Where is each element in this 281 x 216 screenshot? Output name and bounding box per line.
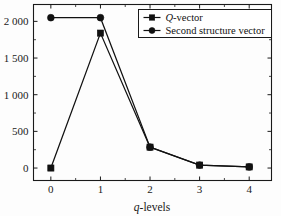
y-tick-label: 1 500 — [4, 52, 29, 64]
y-tick-label: 1 000 — [4, 89, 29, 101]
data-point — [48, 165, 54, 171]
data-point — [147, 144, 154, 151]
legend-label: Second structure vector — [166, 25, 266, 36]
line-chart: 05001 0001 5002 000 01234 q-levels Q-vec… — [0, 0, 281, 216]
x-tick-label: 4 — [246, 183, 252, 195]
x-tick-label: 3 — [197, 183, 203, 195]
x-axis-tick-labels: 01234 — [48, 183, 252, 195]
y-tick-label: 0 — [23, 162, 29, 174]
x-tick-label: 1 — [98, 183, 104, 195]
x-axis-title-text: -levels — [140, 201, 171, 213]
legend-label: Q-vector — [166, 12, 204, 23]
legend-marker-circle-icon — [149, 28, 155, 34]
y-axis-tick-labels: 05001 0001 5002 000 — [4, 15, 29, 174]
y-tick-label: 2 000 — [4, 15, 29, 27]
x-tick-label: 2 — [147, 183, 153, 195]
y-axis-minor-ticks — [34, 40, 272, 150]
x-tick-label: 0 — [48, 183, 54, 195]
legend-marker-square-icon — [149, 15, 154, 20]
data-point — [196, 162, 203, 169]
chart-container: 05001 0001 5002 000 01234 q-levels Q-vec… — [0, 0, 281, 216]
data-point — [246, 164, 253, 171]
data-point — [97, 30, 103, 36]
x-axis-title: q-levels — [134, 201, 171, 214]
data-point — [47, 14, 54, 21]
svg-text:q-levels: q-levels — [134, 201, 171, 214]
y-tick-label: 500 — [12, 125, 29, 137]
legend: Q-vectorSecond structure vector — [139, 10, 272, 38]
data-point — [97, 14, 104, 21]
